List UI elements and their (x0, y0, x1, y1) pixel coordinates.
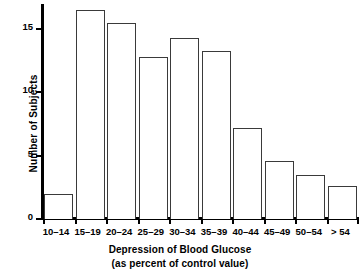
y-tick-label-5: 5 (28, 148, 33, 160)
x-tick-7 (264, 220, 266, 224)
x-tick-label-45-49: 45–49 (259, 225, 295, 238)
bar-gt-54 (328, 186, 357, 219)
x-tick-label-35-39: 35–39 (196, 225, 232, 238)
x-axis-title-line1: Depression of Blood Glucose (109, 244, 252, 255)
x-tick-label-10-14: 10–14 (38, 225, 74, 238)
y-tick-label-10: 10 (22, 84, 33, 96)
x-tick-2 (106, 220, 108, 224)
bar-30-34 (170, 38, 199, 219)
x-tick-4 (169, 220, 171, 224)
x-tick-label-30-34: 30–34 (164, 225, 200, 238)
x-tick-label-20-24: 20–24 (101, 225, 137, 238)
bar-40-44 (233, 128, 262, 219)
bar-20-24 (107, 23, 136, 219)
plot-area: 0 5 10 15 (41, 4, 359, 220)
histogram-figure: Number of Subjects 0 5 10 15 (0, 0, 360, 278)
y-tick-label-0: 0 (28, 211, 33, 223)
y-tick-0: 0 (36, 218, 41, 220)
x-tick-5 (201, 220, 203, 224)
bar-10-14 (44, 194, 73, 219)
x-tick-1 (75, 220, 77, 224)
x-tick-label-25-29: 25–29 (133, 225, 169, 238)
y-tick-5: 5 (36, 155, 41, 157)
x-axis-title: Depression of Blood Glucose (as percent … (0, 243, 360, 271)
x-tick-10 (357, 220, 359, 224)
x-tick-6 (232, 220, 234, 224)
y-tick-label-15: 15 (22, 21, 33, 33)
y-tick-15: 15 (36, 28, 41, 30)
x-tick-0 (43, 220, 45, 224)
x-tick-label-row: 10–14 15–19 20–24 25–29 30–34 35–39 40–4… (38, 225, 360, 239)
x-tick-8 (295, 220, 297, 224)
x-tick-3 (138, 220, 140, 224)
x-tick-label-15-19: 15–19 (70, 225, 106, 238)
x-tick-9 (327, 220, 329, 224)
bar-25-29 (139, 57, 168, 219)
x-tick-label-50-54: 50–54 (291, 225, 327, 238)
bar-35-39 (202, 51, 231, 219)
x-axis-title-line2: (as percent of control value) (0, 257, 360, 271)
y-axis-line (41, 4, 44, 220)
y-tick-10: 10 (36, 91, 41, 93)
y-axis-title: Number of Subjects (28, 29, 39, 219)
bar-45-49 (265, 161, 294, 219)
bar-15-19 (76, 10, 105, 219)
x-tick-label-gt-54: > 54 (322, 225, 358, 238)
x-tick-label-40-44: 40–44 (228, 225, 264, 238)
bar-50-54 (296, 175, 325, 219)
